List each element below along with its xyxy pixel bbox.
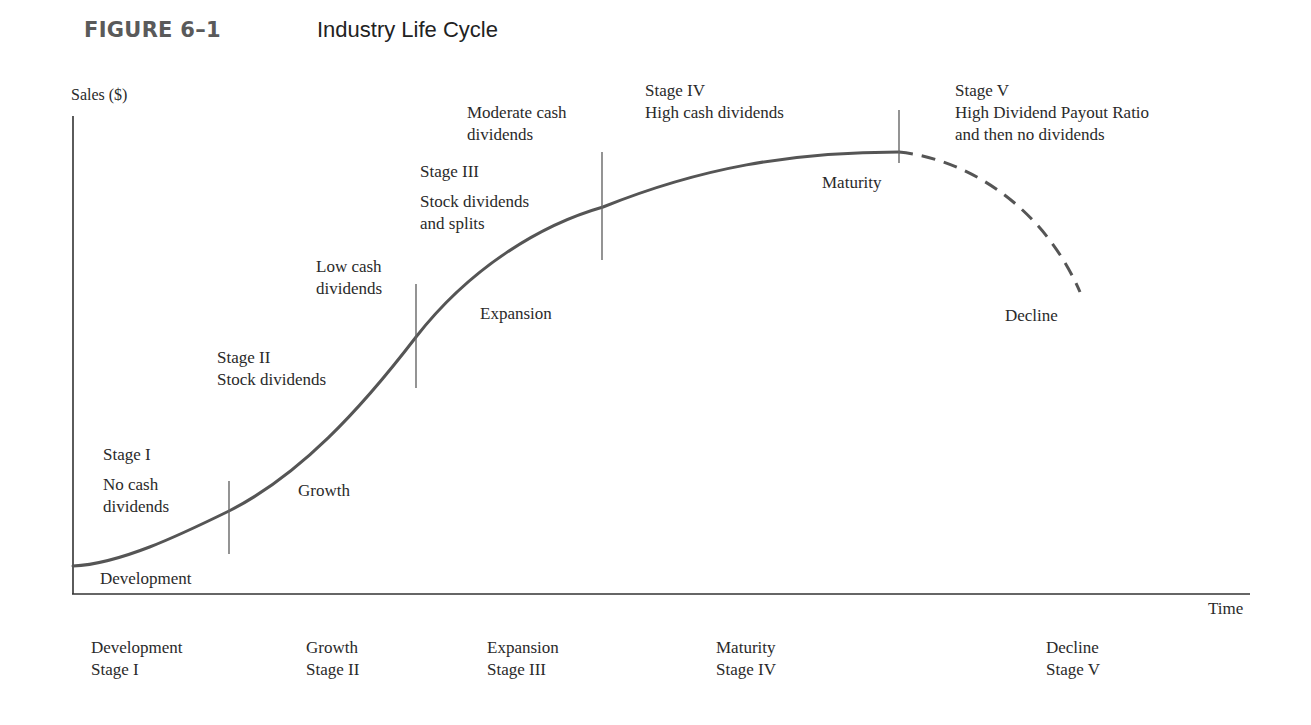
stage5-dividend-line1: High Dividend Payout Ratio — [955, 102, 1149, 124]
bottom-stage: Stage III — [487, 659, 559, 681]
stage2-dividend: Stock dividends — [217, 369, 326, 391]
annotation-stage2: Stage II Stock dividends — [217, 347, 326, 391]
stage3-dividend-line1: Stock dividends — [420, 191, 529, 213]
curve-label-decline: Decline — [1005, 305, 1058, 327]
stage1-dividend-line1: No cash — [103, 474, 169, 496]
stage2-title: Stage II — [217, 347, 326, 369]
annotation-stage4: Stage IV High cash dividends — [645, 80, 784, 124]
bottom-label-decline: Decline Stage V — [1046, 637, 1100, 681]
stage1-title: Stage I — [103, 444, 169, 466]
bottom-stage: Stage V — [1046, 659, 1100, 681]
annotation-stage5: Stage V High Dividend Payout Ratio and t… — [955, 80, 1149, 146]
bottom-phase: Maturity — [716, 637, 776, 659]
bottom-phase: Expansion — [487, 637, 559, 659]
moderate-cash-line1: Moderate cash — [467, 102, 567, 124]
low-cash-line2: dividends — [316, 278, 382, 300]
bottom-label-growth: Growth Stage II — [306, 637, 359, 681]
bottom-stage: Stage II — [306, 659, 359, 681]
stage5-dividend-line2: and then no dividends — [955, 124, 1149, 146]
bottom-phase: Decline — [1046, 637, 1100, 659]
annotation-moderate-cash: Moderate cash dividends — [467, 102, 567, 146]
bottom-phase: Development — [91, 637, 183, 659]
stage5-title: Stage V — [955, 80, 1149, 102]
bottom-stage: Stage IV — [716, 659, 776, 681]
sales-curve-decline-dashed — [899, 152, 1080, 292]
stage4-dividend: High cash dividends — [645, 102, 784, 124]
curve-label-expansion: Expansion — [480, 303, 552, 325]
annotation-low-cash: Low cash dividends — [316, 256, 382, 300]
bottom-label-maturity: Maturity Stage IV — [716, 637, 776, 681]
moderate-cash-line2: dividends — [467, 124, 567, 146]
stage3-dividend-line2: and splits — [420, 213, 529, 235]
bottom-phase: Growth — [306, 637, 359, 659]
curve-label-maturity: Maturity — [822, 172, 882, 194]
curve-label-development: Development — [100, 568, 192, 590]
stage3-title: Stage III — [420, 161, 529, 183]
low-cash-line1: Low cash — [316, 256, 382, 278]
annotation-stage3: Stage III Stock dividends and splits — [420, 161, 529, 235]
stage4-title: Stage IV — [645, 80, 784, 102]
curve-label-growth: Growth — [298, 480, 350, 502]
bottom-label-development: Development Stage I — [91, 637, 183, 681]
bottom-label-expansion: Expansion Stage III — [487, 637, 559, 681]
stage1-dividend-line2: dividends — [103, 496, 169, 518]
annotation-stage1: Stage I No cash dividends — [103, 444, 169, 518]
bottom-stage: Stage I — [91, 659, 183, 681]
